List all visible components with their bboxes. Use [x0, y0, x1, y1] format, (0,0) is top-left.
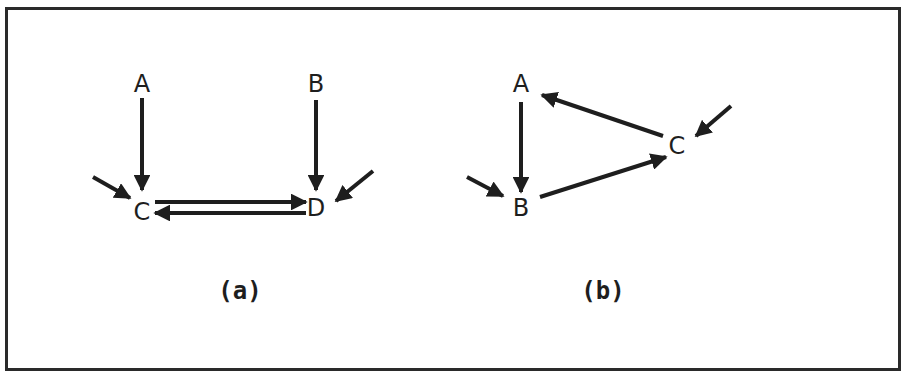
- external-input-arrow-d: [336, 171, 373, 201]
- graph-diagram: ABCD(a)ABC(b): [0, 0, 910, 379]
- node-b: B: [513, 194, 529, 222]
- node-a: A: [513, 70, 530, 98]
- caption-a: (a): [218, 277, 261, 305]
- edge-b-to-c: [540, 157, 666, 197]
- node-c: C: [134, 198, 151, 226]
- node-d: D: [307, 194, 325, 222]
- external-input-arrow-b: [467, 177, 503, 196]
- caption-b: (b): [581, 277, 624, 305]
- external-input-arrow-c: [696, 106, 731, 136]
- node-a: A: [134, 70, 151, 98]
- figure-b: ABC(b): [467, 70, 731, 305]
- node-c: C: [669, 132, 686, 160]
- node-b: B: [308, 70, 324, 98]
- figure-a: ABCD(a): [93, 70, 373, 305]
- edge-c-to-a: [542, 95, 663, 136]
- external-input-arrow-c: [93, 177, 130, 198]
